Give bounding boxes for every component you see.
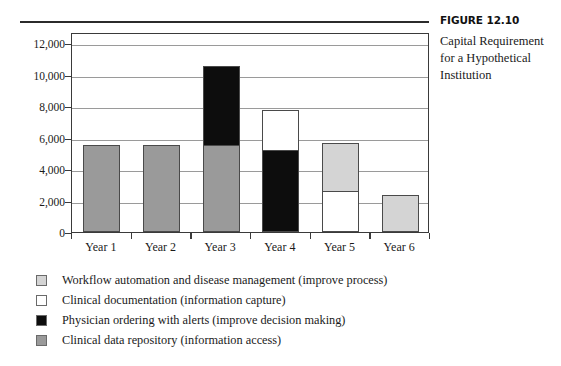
bar-segment[interactable] — [322, 191, 359, 232]
legend-swatch-icon — [36, 295, 47, 306]
y-axis-tick-label: 0 — [5, 227, 65, 239]
figure-caption: FIGURE 12.10 Capital Requirement for a H… — [440, 14, 552, 84]
y-axis: 02,0004,0006,0008,00010,00012,000 — [0, 0, 65, 270]
bar-segment[interactable] — [322, 143, 359, 192]
legend-swatch-icon — [36, 315, 47, 326]
stacked-bar[interactable] — [83, 145, 120, 232]
chart-legend: Workflow automation and disease manageme… — [36, 270, 436, 350]
stacked-bar[interactable] — [322, 143, 359, 232]
x-axis-tick-mark — [429, 233, 430, 239]
x-axis-tick-mark — [190, 233, 191, 239]
plot-area — [71, 33, 429, 233]
x-axis-tick-label: Year 6 — [364, 240, 434, 255]
bar-segment[interactable] — [262, 110, 299, 151]
legend-item[interactable]: Clinical documentation (information capt… — [36, 290, 436, 310]
legend-item[interactable]: Workflow automation and disease manageme… — [36, 270, 436, 290]
bar-group — [311, 32, 371, 232]
figure-number: FIGURE 12.10 — [440, 14, 552, 26]
x-axis-tick-mark — [310, 233, 311, 239]
x-axis-tick-mark — [131, 233, 132, 239]
x-axis-tick-mark — [250, 233, 251, 239]
legend-item-label: Physician ordering with alerts (improve … — [62, 313, 345, 328]
stacked-bar[interactable] — [203, 66, 240, 232]
figure-container: FIGURE 12.10 Capital Requirement for a H… — [0, 0, 561, 366]
bar-group — [72, 32, 132, 232]
legend-item-label: Clinical data repository (information ac… — [62, 333, 281, 348]
legend-item[interactable]: Clinical data repository (information ac… — [36, 330, 436, 350]
bar-segment[interactable] — [262, 150, 299, 232]
y-axis-tick-label: 4,000 — [5, 164, 65, 176]
stacked-bar[interactable] — [262, 110, 299, 232]
stacked-bar[interactable] — [143, 145, 180, 232]
y-axis-tick-label: 8,000 — [5, 101, 65, 113]
legend-item[interactable]: Physician ordering with alerts (improve … — [36, 310, 436, 330]
legend-swatch-icon — [36, 275, 47, 286]
x-axis-tick-mark — [71, 233, 72, 239]
legend-item-label: Workflow automation and disease manageme… — [62, 273, 387, 288]
bar-segment[interactable] — [143, 145, 180, 232]
bar-group — [251, 32, 311, 232]
bar-segment[interactable] — [382, 195, 419, 232]
bar-segment[interactable] — [203, 145, 240, 232]
bar-group — [370, 32, 430, 232]
chart: 02,0004,0006,0008,00010,00012,000 Year 1… — [0, 0, 440, 270]
legend-item-label: Clinical documentation (information capt… — [62, 293, 286, 308]
y-axis-tick-label: 10,000 — [5, 70, 65, 82]
x-axis-tick-mark — [369, 233, 370, 239]
legend-swatch-icon — [36, 335, 47, 346]
y-axis-tick-label: 12,000 — [5, 38, 65, 50]
bar-segment[interactable] — [83, 145, 120, 232]
y-axis-tick-label: 6,000 — [5, 133, 65, 145]
bar-segment[interactable] — [203, 66, 240, 146]
bar-group — [132, 32, 192, 232]
figure-caption-text: Capital Requirement for a Hypothetical I… — [440, 33, 552, 84]
bar-group — [191, 32, 251, 232]
stacked-bar[interactable] — [382, 195, 419, 232]
y-axis-tick-label: 2,000 — [5, 196, 65, 208]
